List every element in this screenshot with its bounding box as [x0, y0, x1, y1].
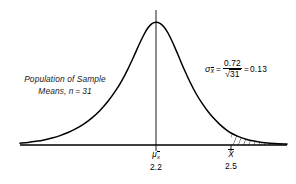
standard-error-value: 0.13 [250, 64, 267, 74]
equals-sign-1: = [216, 64, 221, 74]
equals-sign-2: = [244, 64, 249, 74]
sigma-symbol: σx [205, 64, 214, 75]
mean-value: 2.2 [134, 162, 178, 173]
population-annotation: Population of Sample Means, n = 31 [13, 74, 117, 97]
statistics-figure: Population of Sample Means, n = 31 σx = … [0, 0, 296, 184]
radicand: 31 [230, 70, 240, 79]
sample-mean-axis-label: X 2.5 [209, 150, 253, 171]
standard-error-formula: σx = 0.72 √31 = 0.13 [205, 59, 267, 79]
fraction-numerator: 0.72 [223, 59, 242, 68]
population-annotation-line1: Population of Sample [24, 74, 106, 84]
sigma-subscript: x [211, 67, 214, 74]
mean-axis-label: μx 2.2 [134, 150, 178, 173]
fraction-denominator: √31 [224, 69, 241, 79]
sample-mean-value: 2.5 [209, 161, 253, 172]
mu-subscript: x [157, 152, 160, 163]
radical: √31 [225, 70, 240, 79]
xbar-glyph: X [228, 150, 233, 161]
mu-symbol: μx [134, 150, 178, 162]
fraction: 0.72 √31 [223, 59, 242, 79]
xbar-symbol: X [209, 150, 253, 161]
sigma-glyph: σ [205, 64, 210, 74]
population-annotation-line2: Means, n = 31 [13, 86, 117, 98]
